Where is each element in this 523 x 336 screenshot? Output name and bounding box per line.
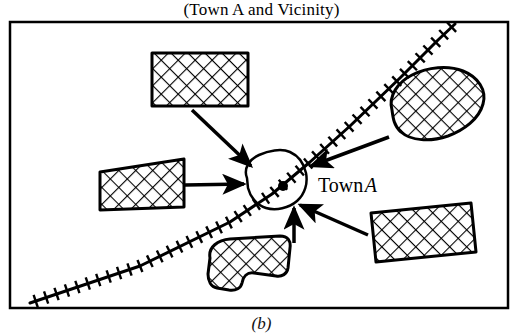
region-top-rectangle bbox=[152, 53, 248, 106]
map-diagram: TownA bbox=[0, 0, 523, 336]
town-a-center-dot bbox=[278, 181, 288, 191]
figure-container: (Town A and Vicinity) TownA (b) bbox=[0, 0, 523, 336]
town-a-label: Town bbox=[318, 174, 363, 196]
town-a-label-letter: A bbox=[363, 174, 378, 196]
map-labels: TownA bbox=[318, 174, 378, 196]
figure-caption: (b) bbox=[0, 314, 523, 334]
region-bottom-rectangle bbox=[371, 203, 476, 262]
arrow-from-left-rectangle bbox=[185, 184, 244, 185]
